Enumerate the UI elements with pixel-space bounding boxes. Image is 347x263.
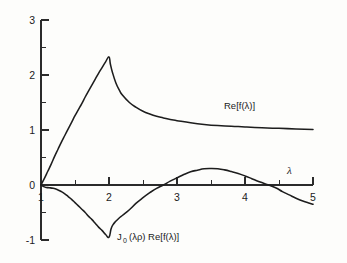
data-series-group	[41, 57, 313, 238]
label-lower-curve-rest: (λρ) Re[f(λ)]	[129, 231, 179, 242]
x-tick-label: 4	[242, 191, 248, 203]
y-tick-label: 2	[29, 69, 35, 81]
y-tick-label: 3	[29, 14, 35, 26]
x-tick-label: 3	[174, 191, 180, 203]
x-tick-label: 1	[38, 191, 44, 203]
y-axis-group: -10123	[26, 14, 49, 246]
label-upper-curve: Re[f(λ)]	[224, 100, 255, 111]
y-tick-label: 1	[29, 124, 35, 136]
y-tick-label: 0	[29, 179, 35, 191]
y-tick-label: -1	[26, 234, 35, 246]
label-lower-curve-subscript: 0	[123, 237, 127, 244]
x-tick-labels: 12345	[38, 191, 316, 203]
label-lower-curve-j: J	[117, 231, 122, 242]
y-tick-labels: -10123	[26, 14, 36, 246]
chart-figure: -10123 12345 Re[f(λ)] J 0 (λρ) Re[f(λ)] …	[0, 0, 347, 263]
curve-re-f-lambda	[41, 57, 313, 185]
y-tick-marks	[41, 20, 49, 240]
plot-canvas: -10123 12345 Re[f(λ)] J 0 (λρ) Re[f(λ)] …	[0, 0, 347, 263]
x-tick-label: 2	[106, 191, 112, 203]
x-axis-symbol-lambda: λ	[286, 164, 292, 176]
x-tick-label: 5	[310, 191, 316, 203]
x-axis-group: 12345	[38, 177, 316, 203]
annotation-group: Re[f(λ)] J 0 (λρ) Re[f(λ)] λ	[117, 100, 292, 244]
